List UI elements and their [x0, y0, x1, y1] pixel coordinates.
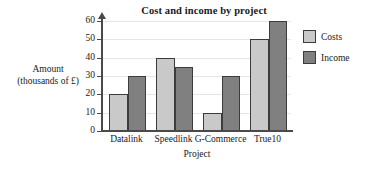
bar-g-commerce-income [222, 76, 241, 131]
y-axis-tick-label-text: 30 [73, 71, 95, 81]
y-axis-tick [97, 39, 102, 40]
y-axis-tick [97, 94, 102, 95]
chart-title: Cost and income by project [104, 5, 304, 16]
y-axis-tick-label: 0 [70, 126, 95, 136]
y-axis-tick [97, 131, 102, 132]
y-axis-tick-label: 60 [70, 16, 95, 26]
y-axis-tick-label-text: 40 [73, 53, 95, 63]
bar-chart-figure: Cost and income by project Amount (thous… [0, 0, 377, 178]
x-axis-title: Project [103, 149, 291, 159]
y-axis-tick [97, 58, 102, 59]
bar-g-commerce-costs [203, 113, 222, 131]
y-axis-tick-label: 30 [70, 71, 95, 81]
legend-swatch-costs [303, 30, 316, 43]
chart-legend: CostsIncome [303, 26, 350, 68]
bar-speedlink-costs [156, 58, 175, 131]
y-axis-tick [97, 76, 102, 77]
legend-label-costs: Costs [321, 32, 342, 42]
bar-true10-income [269, 21, 288, 131]
y-axis-tick-label: 50 [70, 34, 95, 44]
gridline [103, 21, 291, 22]
y-axis-tick-label-text: 20 [73, 89, 95, 99]
y-axis-tick-label: 20 [70, 89, 95, 99]
legend-label-income: Income [321, 53, 350, 63]
y-axis-tick-label-text: 50 [73, 34, 95, 44]
bar-true10-costs [250, 39, 269, 131]
legend-swatch-income [303, 51, 316, 64]
y-axis-tick [97, 21, 102, 22]
y-axis-line [101, 17, 103, 132]
plot-area [103, 21, 291, 131]
y-axis-tick [97, 113, 102, 114]
y-axis-tick-label: 10 [70, 108, 95, 118]
legend-item-costs[interactable]: Costs [303, 26, 350, 47]
legend-item-income[interactable]: Income [303, 47, 350, 68]
bar-datalink-costs [109, 94, 128, 131]
bar-datalink-income [128, 76, 147, 131]
y-axis-tick-label-text: 60 [73, 16, 95, 26]
x-axis-line [101, 130, 293, 132]
y-axis-tick-label-text: 0 [73, 126, 95, 136]
bar-speedlink-income [175, 67, 194, 131]
y-axis-tick-label-text: 10 [73, 108, 95, 118]
y-axis-tick-label: 40 [70, 53, 95, 63]
x-axis-category-label: True10 [236, 134, 299, 145]
